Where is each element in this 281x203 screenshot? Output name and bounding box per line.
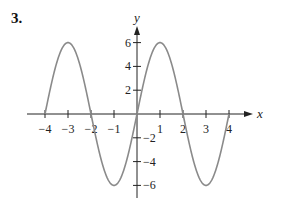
y-tick-label: −6 xyxy=(143,178,156,192)
x-axis-arrow-icon xyxy=(244,111,253,117)
y-tick-label: 2 xyxy=(125,83,131,97)
x-tick-label: −1 xyxy=(108,122,121,136)
x-tick-label: −4 xyxy=(39,122,52,136)
x-axis-label: x xyxy=(256,106,263,121)
y-tick-label: −2 xyxy=(143,131,156,145)
y-tick-label: 6 xyxy=(125,36,131,50)
x-tick-label: 3 xyxy=(203,122,209,136)
y-tick-label: 4 xyxy=(125,59,131,73)
x-tick-label: −3 xyxy=(62,122,75,136)
sine-graph: xy−4−3−2−11234−6−4−2246 xyxy=(0,0,281,203)
y-tick-label: −4 xyxy=(143,155,156,169)
x-tick-label: 1 xyxy=(157,122,163,136)
y-axis-arrow-icon xyxy=(134,26,140,35)
y-axis-label: y xyxy=(132,10,140,25)
